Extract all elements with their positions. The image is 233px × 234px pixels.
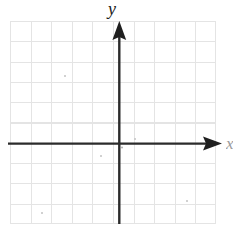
coordinate-plane-figure: y x xyxy=(0,0,233,234)
coordinate-plane-graphic xyxy=(0,0,233,234)
x-axis-label: x xyxy=(226,135,233,152)
origin-point xyxy=(121,146,123,148)
y-axis-label: y xyxy=(108,0,116,18)
